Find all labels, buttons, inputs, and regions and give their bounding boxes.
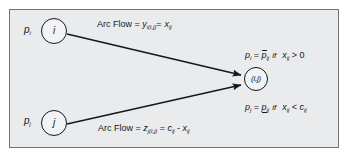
edge-j-label-prefix: Arc Flow = [98,123,143,133]
edge-i-to-ij-label: Arc Flow = yi(i,j)=xij [97,20,171,30]
condition-upper-keyword: if [269,51,279,60]
edge-i-label-prefix: Arc Flow = [97,19,142,29]
node-ij-label: (i,j) [251,75,261,83]
condition-lower-keyword: if [269,103,279,112]
node-j: j [41,110,67,136]
node-i: i [41,18,67,44]
node-i-label: i [53,26,55,36]
node-ij: (i,j) [244,67,268,91]
node-j-label: j [53,118,55,128]
figure-container: pi i pj j (i,j) Arc Flow = yi(i,j)=xij A… [0,0,351,158]
condition-upper: pi = pijifxij > 0 [245,50,304,61]
node-j-outer-label: pj [24,116,31,127]
edge-i-to-ij-line [67,34,241,75]
node-i-outer-label: pi [24,25,31,36]
edge-j-to-ij-label: Arc Flow = zj(i,j) = cij - xij [98,124,190,134]
condition-lower: pj = pijifxij < cij [245,103,307,113]
edge-j-to-ij-line [67,85,241,124]
